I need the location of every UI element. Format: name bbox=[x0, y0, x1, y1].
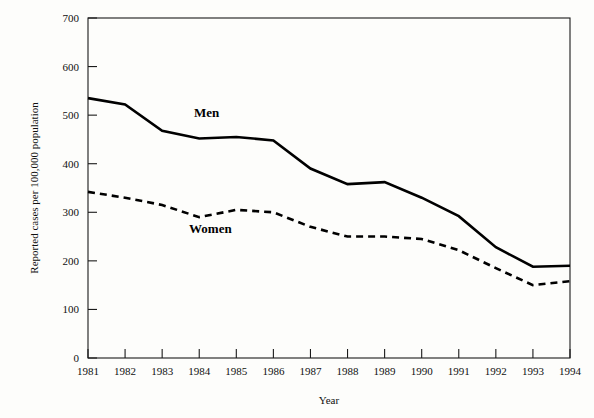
series-label-men: Men bbox=[194, 105, 220, 120]
y-tick-label: 400 bbox=[63, 158, 80, 170]
x-tick-label: 1994 bbox=[559, 365, 582, 377]
x-tick-label: 1985 bbox=[225, 365, 248, 377]
x-axis-ticks bbox=[88, 349, 570, 358]
x-tick-label: 1981 bbox=[77, 365, 99, 377]
y-tick-label: 300 bbox=[63, 206, 80, 218]
plot-frame bbox=[88, 18, 570, 358]
x-tick-label: 1991 bbox=[448, 365, 470, 377]
series-line-men bbox=[88, 98, 570, 267]
x-tick-label: 1993 bbox=[522, 365, 545, 377]
x-tick-label: 1992 bbox=[485, 365, 507, 377]
y-axis-ticks bbox=[88, 18, 97, 358]
y-tick-label: 600 bbox=[63, 61, 80, 73]
x-tick-label: 1989 bbox=[374, 365, 397, 377]
x-tick-label: 1986 bbox=[262, 365, 285, 377]
y-axis-title: Reported cases per 100,000 population bbox=[28, 102, 40, 274]
y-tick-label: 200 bbox=[63, 255, 80, 267]
x-tick-label: 1983 bbox=[151, 365, 174, 377]
x-axis-tick-labels: 1981198219831984198519861987198819891990… bbox=[77, 365, 582, 377]
y-tick-label: 500 bbox=[63, 109, 80, 121]
series-label-women: Women bbox=[189, 221, 232, 236]
x-axis-title: Year bbox=[319, 394, 340, 406]
x-tick-label: 1987 bbox=[299, 365, 322, 377]
y-tick-label: 100 bbox=[63, 303, 80, 315]
y-tick-label: 700 bbox=[63, 12, 80, 24]
line-chart: 0100200300400500600700 19811982198319841… bbox=[0, 0, 594, 418]
y-tick-label: 0 bbox=[74, 352, 80, 364]
x-tick-label: 1990 bbox=[411, 365, 434, 377]
chart-container: 0100200300400500600700 19811982198319841… bbox=[0, 0, 594, 418]
y-axis-tick-labels: 0100200300400500600700 bbox=[63, 12, 80, 364]
x-tick-label: 1984 bbox=[188, 365, 211, 377]
x-tick-label: 1988 bbox=[337, 365, 360, 377]
series-line-women bbox=[88, 192, 570, 285]
x-tick-label: 1982 bbox=[114, 365, 136, 377]
